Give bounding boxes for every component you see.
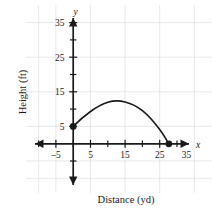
y-tick-label: 25 [55,53,65,63]
x-tick-label: –5 [50,150,61,160]
chart-background [0,0,212,215]
projectile-parabola-chart: –5 5 15 25 35 5 15 25 35 y x Distance (y… [0,0,212,215]
x-intercept-point [165,140,172,147]
x-tick-label: 5 [88,150,93,160]
x-tick-label: 35 [182,150,192,160]
x-axis-variable-label: x [195,140,201,150]
y-tick-label: 35 [55,18,65,28]
chart-figure: –5 5 15 25 35 5 15 25 35 y x Distance (y… [0,0,212,215]
x-axis-title: Distance (yd) [98,194,155,206]
y-tick-label: 5 [60,122,65,132]
y-axis-variable-label: y [72,7,78,17]
y-intercept-point [70,123,77,130]
x-tick-label: 15 [120,150,130,160]
x-tick-label: 25 [155,150,165,160]
y-axis-title: Height (ft) [17,69,29,114]
y-tick-label: 15 [55,87,65,97]
